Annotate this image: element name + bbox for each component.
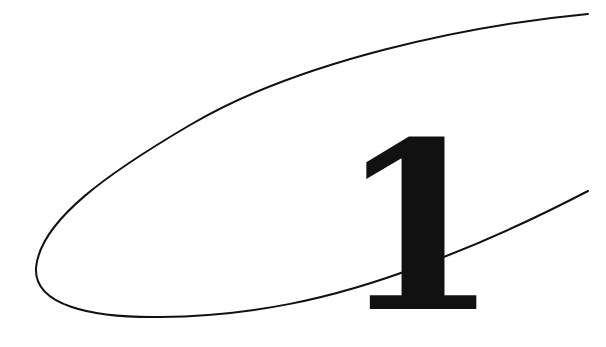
chapter-number: 1 (338, 118, 442, 338)
swoosh-ellipse-decoration (0, 0, 606, 347)
chapter-opener: 1 (0, 0, 606, 347)
